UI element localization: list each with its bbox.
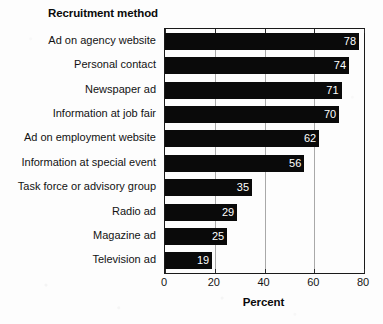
bar-row: 71 — [165, 82, 364, 99]
category-label: Task force or advisory group — [0, 178, 160, 195]
tick-mark-bottom — [165, 269, 166, 273]
tick-mark-bottom — [364, 269, 365, 273]
bar-row: 29 — [165, 204, 364, 221]
bar-row: 19 — [165, 252, 364, 269]
x-tick-label: 60 — [307, 276, 319, 288]
bar-value-label: 25 — [212, 228, 224, 245]
bar-row: 62 — [165, 130, 364, 147]
x-tick-label: 0 — [161, 276, 167, 288]
bar-row: 25 — [165, 228, 364, 245]
plot-area: 78747170625635292519 — [164, 28, 365, 274]
category-label: Television ad — [0, 251, 160, 268]
category-label: Personal contact — [0, 56, 160, 73]
bar-value-label: 56 — [289, 155, 301, 172]
bar: 56 — [165, 155, 304, 172]
bar: 29 — [165, 204, 237, 221]
category-label: Ad on agency website — [0, 32, 160, 49]
bar: 62 — [165, 130, 319, 147]
bar-row: 56 — [165, 155, 364, 172]
tick-mark-bottom — [215, 269, 216, 273]
tick-mark-bottom — [314, 269, 315, 273]
x-tick-label: 40 — [257, 276, 269, 288]
category-label: Information at special event — [0, 154, 160, 171]
bar-value-label: 78 — [344, 33, 356, 50]
bar: 71 — [165, 82, 342, 99]
bar-row: 78 — [165, 33, 364, 50]
bar-value-label: 35 — [237, 179, 249, 196]
x-tick-label: 20 — [208, 276, 220, 288]
tick-mark-bottom — [265, 269, 266, 273]
bar: 25 — [165, 228, 227, 245]
category-label: Information at job fair — [0, 105, 160, 122]
bar-value-label: 74 — [334, 57, 346, 74]
bar: 78 — [165, 33, 359, 50]
bar: 19 — [165, 252, 212, 269]
bar-row: 70 — [165, 106, 364, 123]
bar-row: 74 — [165, 57, 364, 74]
category-label: Magazine ad — [0, 227, 160, 244]
bar: 74 — [165, 57, 349, 74]
category-label: Newspaper ad — [0, 81, 160, 98]
bar-value-label: 29 — [222, 204, 234, 221]
x-axis-title: Percent — [164, 296, 363, 308]
bar: 35 — [165, 179, 252, 196]
bar-value-label: 71 — [326, 82, 338, 99]
category-label: Ad on employment website — [0, 129, 160, 146]
bar-value-label: 62 — [304, 130, 316, 147]
chart-screenshot: Recruitment method Ad on agency websiteP… — [0, 0, 383, 324]
category-label: Radio ad — [0, 203, 160, 220]
bar-value-label: 19 — [197, 252, 209, 269]
x-tick-label: 80 — [357, 276, 369, 288]
bar: 70 — [165, 106, 339, 123]
chart-title: Recruitment method — [48, 7, 158, 19]
tick-mark-top — [364, 29, 365, 33]
bar-row: 35 — [165, 179, 364, 196]
bar-value-label: 70 — [324, 106, 336, 123]
